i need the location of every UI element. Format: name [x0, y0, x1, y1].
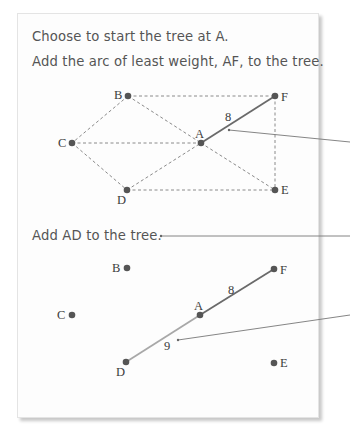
pointer-dot [160, 235, 162, 237]
prims-algorithm-diagram: 8 B C D A F E 8 9 [0, 0, 358, 429]
label-a: A [194, 299, 203, 313]
node-c [69, 140, 76, 147]
arc-da [127, 143, 201, 190]
pointer-dot [177, 339, 179, 341]
tree-arc-af [201, 96, 275, 143]
node-b [125, 93, 132, 100]
pointer-weight-af [229, 130, 350, 142]
node-f [271, 266, 278, 273]
nodes [69, 265, 278, 367]
dashed-arcs [72, 96, 275, 190]
pointer-weight-ad [178, 315, 350, 340]
label-f: F [281, 90, 288, 104]
tree-arc-af [200, 269, 274, 315]
label-d: D [116, 365, 125, 379]
node-c [69, 312, 76, 319]
arc-ba [128, 96, 201, 143]
label-e: E [281, 183, 289, 197]
label-a: A [195, 127, 204, 141]
label-c: C [57, 308, 65, 322]
node-f [272, 93, 279, 100]
arc-ae [201, 143, 275, 190]
arc-bc [72, 96, 128, 143]
top-graph: 8 B C D A F E [58, 88, 289, 207]
label-e: E [280, 356, 288, 370]
arc-cd [72, 143, 127, 190]
bottom-graph: 8 9 B C D A F E [57, 261, 288, 379]
pointer-lines [161, 130, 350, 340]
node-b [124, 265, 131, 272]
weight-af: 8 [228, 283, 234, 297]
node-e [271, 360, 278, 367]
label-b: B [114, 88, 122, 102]
node-e [272, 187, 279, 194]
pointer-dot [228, 129, 230, 131]
weight-ad: 9 [164, 339, 170, 353]
label-c: C [58, 136, 66, 150]
label-f: F [280, 263, 287, 277]
label-b: B [112, 261, 120, 275]
weight-af: 8 [225, 110, 231, 124]
label-d: D [117, 193, 126, 207]
